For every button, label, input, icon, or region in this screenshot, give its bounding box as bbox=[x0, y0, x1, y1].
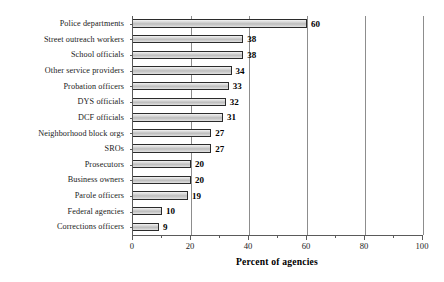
x-axis-minor-tick bbox=[219, 235, 220, 238]
bar-value-label: 27 bbox=[215, 142, 224, 156]
bar-value-label: 38 bbox=[247, 48, 256, 62]
x-axis-minor-tick bbox=[393, 235, 394, 238]
gridline bbox=[307, 16, 308, 235]
bar-value-label: 19 bbox=[192, 189, 201, 203]
bar-value-label: 34 bbox=[236, 64, 245, 78]
bar-value-label: 31 bbox=[227, 110, 236, 124]
bar-value-label: 9 bbox=[163, 220, 168, 234]
bar bbox=[133, 160, 191, 168]
bar bbox=[133, 82, 229, 90]
bar bbox=[133, 207, 162, 215]
bar-chart: Police departmentsStreet outreach worker… bbox=[0, 0, 444, 282]
gridline bbox=[365, 16, 366, 235]
x-axis-tick-label: 100 bbox=[405, 241, 439, 252]
bar bbox=[133, 144, 211, 152]
category-label: Prosecutors bbox=[0, 157, 124, 173]
bar bbox=[133, 98, 226, 106]
x-axis-tick-label: 0 bbox=[115, 241, 149, 252]
category-label: Federal agencies bbox=[0, 204, 124, 220]
gridline bbox=[423, 16, 424, 235]
category-label: Parole officers bbox=[0, 188, 124, 204]
bar bbox=[133, 19, 307, 27]
x-axis-minor-tick bbox=[335, 235, 336, 238]
bar bbox=[133, 35, 243, 43]
bar-value-label: 60 bbox=[311, 17, 320, 31]
category-label: Street outreach workers bbox=[0, 32, 124, 48]
x-axis-tick-label: 60 bbox=[289, 241, 323, 252]
x-axis-minor-tick bbox=[161, 235, 162, 238]
category-label: SROs bbox=[0, 141, 124, 157]
category-label: DCF officials bbox=[0, 110, 124, 126]
category-label: Police departments bbox=[0, 16, 124, 32]
x-axis-major-tick bbox=[248, 235, 249, 240]
bar bbox=[133, 223, 159, 231]
x-axis-tick-label: 80 bbox=[347, 241, 381, 252]
bar bbox=[133, 176, 191, 184]
category-label: Business owners bbox=[0, 172, 124, 188]
category-label: DYS officials bbox=[0, 94, 124, 110]
category-label: School officials bbox=[0, 47, 124, 63]
x-axis-major-tick bbox=[422, 235, 423, 240]
category-label: Neighborhood block orgs bbox=[0, 126, 124, 142]
category-label: Probation officers bbox=[0, 79, 124, 95]
bar-value-label: 38 bbox=[247, 32, 256, 46]
bar-value-label: 32 bbox=[230, 95, 239, 109]
bar-value-label: 33 bbox=[233, 79, 242, 93]
category-label: Corrections officers bbox=[0, 219, 124, 235]
bar-value-label: 20 bbox=[195, 157, 204, 171]
bar-value-label: 10 bbox=[166, 204, 175, 218]
x-axis-major-tick bbox=[364, 235, 365, 240]
category-label: Other service providers bbox=[0, 63, 124, 79]
x-axis-major-tick bbox=[190, 235, 191, 240]
x-axis-title: Percent of agencies bbox=[132, 256, 422, 267]
bar bbox=[133, 66, 232, 74]
x-axis-tick-label: 20 bbox=[173, 241, 207, 252]
bar bbox=[133, 191, 188, 199]
x-axis-minor-tick bbox=[277, 235, 278, 238]
bar bbox=[133, 51, 243, 59]
bar bbox=[133, 113, 223, 121]
x-axis-tick-label: 40 bbox=[231, 241, 265, 252]
bar-value-label: 20 bbox=[195, 173, 204, 187]
category-axis: Police departmentsStreet outreach worker… bbox=[0, 16, 128, 235]
x-axis-major-tick bbox=[132, 235, 133, 240]
bar-value-label: 27 bbox=[215, 126, 224, 140]
x-axis-major-tick bbox=[306, 235, 307, 240]
plot-area: 603838343332312727202019109 bbox=[132, 16, 422, 235]
bar bbox=[133, 129, 211, 137]
